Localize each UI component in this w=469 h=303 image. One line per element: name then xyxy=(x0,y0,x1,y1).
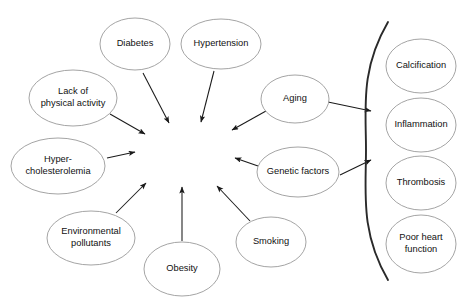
node-label-line: Smoking xyxy=(253,236,289,246)
node-label-line: Environmental xyxy=(61,227,120,237)
node-label-line: Inflammation xyxy=(394,119,447,129)
node-hypercholesterolemia[interactable]: Hyper-cholesterolemia xyxy=(11,138,105,194)
node-thrombosis[interactable]: Thrombosis xyxy=(386,156,456,210)
node-label-thrombosis: Thrombosis xyxy=(397,177,446,187)
node-inflammation[interactable]: Inflammation xyxy=(386,98,456,152)
edge-arrow xyxy=(217,186,250,221)
node-label-line: Poor heart xyxy=(399,233,443,243)
node-label-line: function xyxy=(405,244,438,254)
node-label-line: Diabetes xyxy=(117,38,154,48)
node-diabetes[interactable]: Diabetes xyxy=(100,18,170,70)
node-obesity[interactable]: Obesity xyxy=(144,242,220,296)
node-genetic-factors[interactable]: Genetic factors xyxy=(257,147,339,197)
node-label-inflammation: Inflammation xyxy=(394,119,447,129)
node-label-obesity: Obesity xyxy=(166,263,198,273)
concept-map-diagram: DiabetesHypertensionLack ofphysical acti… xyxy=(0,0,469,303)
nodes-layer: DiabetesHypertensionLack ofphysical acti… xyxy=(11,18,456,296)
outcomes-brace xyxy=(365,22,388,280)
node-label-line: Aging xyxy=(283,93,307,103)
edge-arrow xyxy=(110,114,145,134)
node-label-line: cholesterolemia xyxy=(25,166,91,176)
edge-arrow xyxy=(201,71,214,122)
node-label-line: Lack of xyxy=(58,87,88,97)
node-label-genetic-factors: Genetic factors xyxy=(267,166,330,176)
node-label-line: pollutants xyxy=(71,238,111,248)
node-label-line: Thrombosis xyxy=(397,177,446,187)
node-smoking[interactable]: Smoking xyxy=(236,217,306,267)
edges-layer xyxy=(107,71,371,241)
edge-arrow xyxy=(143,73,169,123)
node-label-line: Obesity xyxy=(166,263,198,273)
node-label-aging: Aging xyxy=(283,93,307,103)
node-label-line: physical activity xyxy=(41,98,106,108)
node-lack-physical-activity[interactable]: Lack ofphysical activity xyxy=(29,70,117,126)
node-label-smoking: Smoking xyxy=(253,236,289,246)
node-label-poor-heart-function: Poor heartfunction xyxy=(399,233,443,255)
node-label-calcification: Calcification xyxy=(396,60,446,70)
node-label-line: Calcification xyxy=(396,60,446,70)
edge-arrow xyxy=(107,152,135,158)
edge-arrow xyxy=(328,102,371,111)
node-label-line: Hypertension xyxy=(194,38,249,48)
node-aging[interactable]: Aging xyxy=(261,75,329,123)
node-poor-heart-function[interactable]: Poor heartfunction xyxy=(386,215,456,273)
outcomes-brace-icon xyxy=(365,22,388,280)
node-environmental-pollutants[interactable]: Environmentalpollutants xyxy=(47,211,135,265)
node-label-line: Genetic factors xyxy=(267,166,330,176)
node-label-hypertension: Hypertension xyxy=(194,38,249,48)
edge-arrow xyxy=(235,158,258,166)
node-label-diabetes: Diabetes xyxy=(117,38,154,48)
node-label-line: Hyper- xyxy=(44,155,72,165)
edge-arrow xyxy=(116,183,146,213)
diagram-canvas: DiabetesHypertensionLack ofphysical acti… xyxy=(0,0,469,303)
node-calcification[interactable]: Calcification xyxy=(386,39,456,93)
edge-arrow xyxy=(232,111,266,130)
node-hypertension[interactable]: Hypertension xyxy=(181,19,261,69)
